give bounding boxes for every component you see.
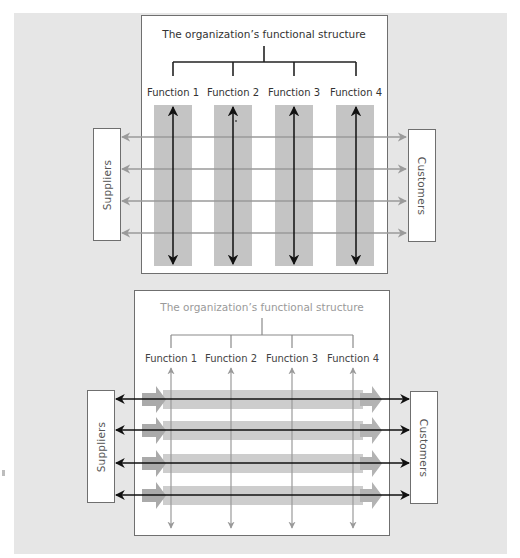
bottom-process-flow-bars: [142, 386, 382, 509]
bottom-function-2-label: Function 2: [205, 353, 257, 364]
bottom-function-1-label: Function 1: [145, 353, 197, 364]
bottom-supplier-customer-double-arrows: [116, 399, 409, 495]
bottom-structure-title: The organization’s functional structure: [159, 301, 364, 313]
bottom-diagram-graphics: The organization’s functional structure …: [0, 0, 520, 558]
bottom-function-4-label: Function 4: [327, 353, 379, 364]
bottom-org-tree: [171, 318, 353, 348]
bottom-function-3-label: Function 3: [266, 353, 318, 364]
